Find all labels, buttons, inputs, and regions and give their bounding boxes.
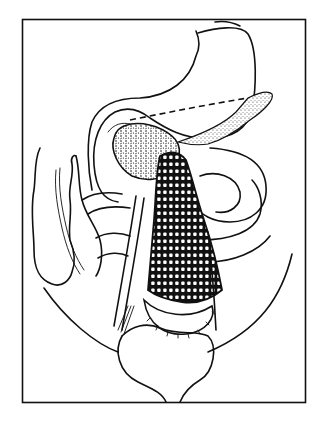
pancreas (178, 92, 272, 145)
anatomical-illustration (0, 0, 318, 421)
bladder (118, 325, 213, 402)
mesh-segment (148, 153, 222, 303)
ascending-colon (32, 148, 101, 285)
illustration-svg (0, 0, 318, 421)
